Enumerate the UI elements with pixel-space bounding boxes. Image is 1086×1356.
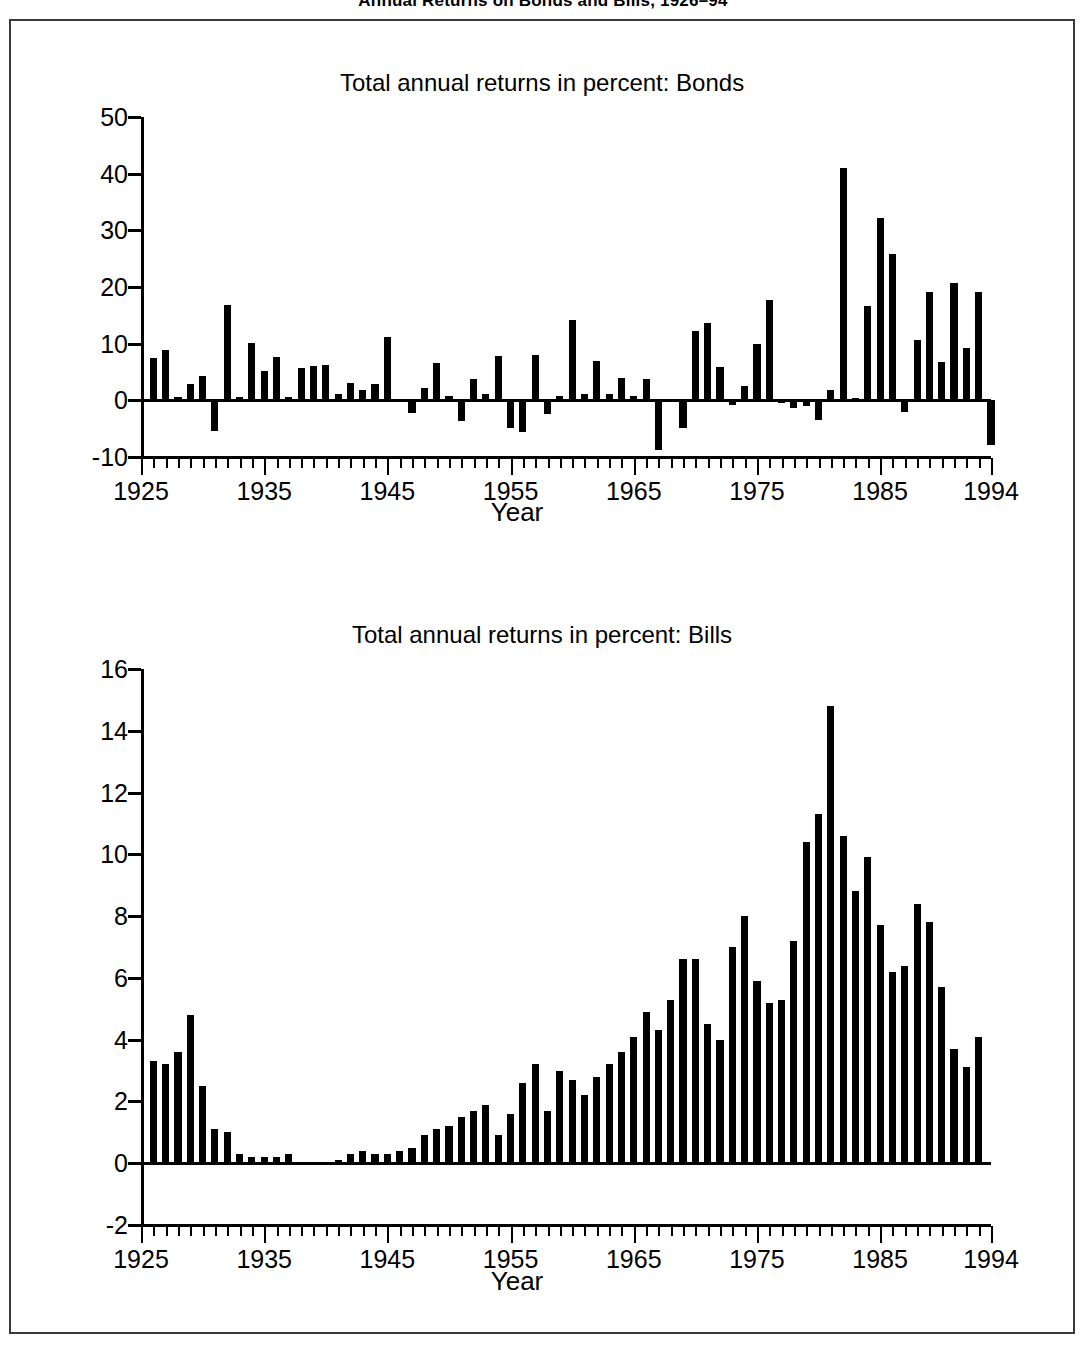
bar	[248, 1157, 255, 1163]
bonds-x-tick	[621, 458, 623, 468]
bar	[716, 1040, 723, 1164]
bonds-x-tick	[658, 458, 660, 468]
bar	[914, 904, 921, 1163]
bills-x-tick	[437, 1226, 439, 1236]
bills-x-tick	[708, 1226, 710, 1236]
bar	[310, 366, 317, 401]
bar	[963, 1067, 970, 1163]
bonds-x-axis	[141, 456, 991, 459]
bar	[421, 1135, 428, 1163]
bills-x-tick	[400, 1226, 402, 1236]
bills-x-tick	[646, 1226, 648, 1236]
bar	[359, 1151, 366, 1163]
bar	[273, 1157, 280, 1163]
bar	[766, 300, 773, 400]
bar	[667, 1000, 674, 1164]
bonds-x-tick	[892, 458, 894, 468]
bills-x-tick	[621, 1226, 623, 1236]
bonds-xaxis-title: Year	[0, 497, 1048, 528]
bills-x-tick	[387, 1226, 389, 1243]
bonds-y-tick-label: 10	[100, 331, 128, 356]
bar	[766, 1003, 773, 1164]
bar	[630, 1037, 637, 1164]
bills-x-tick	[511, 1226, 513, 1243]
bar	[803, 400, 810, 406]
bar	[187, 384, 194, 400]
bonds-y-tick-label: 50	[100, 105, 128, 130]
bar	[495, 1135, 502, 1163]
bills-x-tick	[991, 1226, 993, 1243]
bar	[790, 400, 797, 407]
bonds-x-tick	[166, 458, 168, 468]
bonds-y-tick	[128, 399, 141, 402]
bonds-x-tick	[572, 458, 574, 468]
bar	[827, 390, 834, 401]
bar	[741, 916, 748, 1163]
bills-x-tick	[461, 1226, 463, 1236]
bills-x-tick	[966, 1226, 968, 1236]
bar	[174, 1052, 181, 1163]
bar	[236, 1154, 243, 1163]
bar	[790, 941, 797, 1163]
bar	[716, 367, 723, 400]
bar	[630, 396, 637, 400]
bar	[889, 972, 896, 1164]
bonds-x-tick	[917, 458, 919, 468]
bonds-y-tick	[128, 456, 141, 459]
bills-x-tick	[942, 1226, 944, 1236]
bonds-x-tick	[757, 458, 759, 475]
bills-x-tick	[855, 1226, 857, 1236]
bills-y-tick-label: 10	[100, 842, 128, 867]
bonds-x-tick	[350, 458, 352, 468]
bills-y-axis	[141, 669, 144, 1225]
bar	[556, 396, 563, 401]
bar	[322, 365, 329, 400]
bills-x-tick	[979, 1226, 981, 1236]
bar	[778, 400, 785, 402]
bar	[445, 396, 452, 401]
bonds-x-tick	[868, 458, 870, 468]
bar	[532, 355, 539, 400]
bar	[667, 399, 674, 401]
bonds-y-tick	[128, 116, 141, 119]
bonds-x-tick	[437, 458, 439, 468]
bills-x-tick	[745, 1226, 747, 1236]
bills-y-tick-label: 2	[114, 1089, 128, 1114]
bonds-x-tick	[683, 458, 685, 468]
bills-plot-area: -202468101214161925193519451955196519751…	[141, 669, 991, 1225]
bar	[408, 400, 415, 412]
bar	[310, 1163, 317, 1164]
bonds-x-tick	[190, 458, 192, 468]
bills-x-tick	[178, 1226, 180, 1236]
bonds-x-tick	[966, 458, 968, 468]
bar	[199, 1086, 206, 1163]
bills-x-tick	[732, 1226, 734, 1236]
bonds-x-tick	[609, 458, 611, 468]
bills-x-tick	[141, 1226, 143, 1243]
bills-y-tick-label: 6	[114, 965, 128, 990]
bonds-y-tick	[128, 229, 141, 232]
bar	[519, 1083, 526, 1163]
bar	[359, 390, 366, 400]
bar	[914, 340, 921, 401]
bills-x-tick	[634, 1226, 636, 1243]
bonds-x-tick	[732, 458, 734, 468]
bills-y-tick-label: 0	[114, 1151, 128, 1176]
bonds-x-tick	[584, 458, 586, 468]
bonds-x-tick	[338, 458, 340, 468]
bar	[803, 842, 810, 1163]
bar	[692, 331, 699, 401]
bills-y-tick	[128, 853, 141, 856]
bar	[827, 706, 834, 1163]
bills-x-tick	[252, 1226, 254, 1236]
bar	[926, 292, 933, 401]
bar	[840, 836, 847, 1163]
bills-y-tick	[128, 1100, 141, 1103]
bar	[753, 981, 760, 1163]
bonds-x-tick	[264, 458, 266, 475]
bills-x-tick	[277, 1226, 279, 1236]
bar	[569, 1080, 576, 1163]
bonds-y-tick-label: 40	[100, 161, 128, 186]
bar	[864, 306, 871, 401]
bills-x-tick	[671, 1226, 673, 1236]
